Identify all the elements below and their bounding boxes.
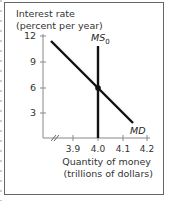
x-tick-4.0: 4.0 bbox=[86, 144, 110, 154]
x-axis-title: Quantity of money bbox=[62, 156, 151, 167]
equilibrium-point bbox=[95, 85, 101, 91]
md-curve bbox=[51, 41, 133, 123]
ms0-label: MS0 bbox=[91, 32, 110, 46]
x-tick-4.2: 4.2 bbox=[135, 144, 159, 154]
x-tick-3.9: 3.9 bbox=[61, 144, 85, 154]
md-label: MD bbox=[130, 125, 146, 136]
x-tick-4.1: 4.1 bbox=[111, 144, 135, 154]
x-axis-subtitle: (trillions of dollars) bbox=[64, 168, 153, 179]
